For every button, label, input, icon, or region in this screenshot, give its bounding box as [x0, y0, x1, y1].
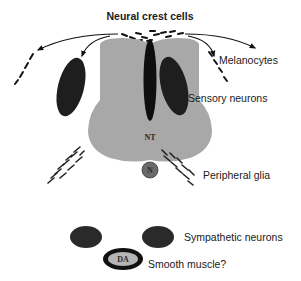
notochord-label: N [147, 166, 153, 175]
neural-crest-cells-label: Neural crest cells [107, 10, 194, 22]
central-canal [144, 39, 157, 121]
sympathetic-ganglion-left [70, 226, 102, 248]
peripheral-glia-label: Peripheral glia [203, 169, 270, 181]
neural-tube-label: NT [144, 133, 156, 142]
sympathetic-ganglion-right [142, 226, 174, 248]
sympathetic-neurons-label: Sympathetic neurons [184, 231, 283, 243]
neural-crest-diagram: Neural crest cells NT [0, 0, 301, 281]
melanocytes-label: Melanocytes [219, 54, 278, 66]
dorsal-aorta-label: DA [117, 255, 129, 264]
peripheral-glia-left [48, 147, 84, 183]
sensory-ganglion-left [51, 55, 91, 120]
sensory-neurons-label: Sensory neurons [188, 92, 267, 104]
melanocyte-cells-left [15, 54, 33, 84]
smooth-muscle-label: Smooth muscle? [148, 258, 226, 270]
